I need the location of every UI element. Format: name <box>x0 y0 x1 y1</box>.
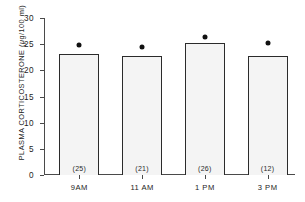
significance-marker-dot <box>140 45 145 50</box>
y-tick-10: 10 <box>40 123 44 124</box>
y-tick-label-20: 20 <box>24 66 34 75</box>
y-tick-label-5: 5 <box>29 144 34 153</box>
y-tick-label-10: 10 <box>24 118 34 127</box>
y-axis-line <box>44 18 45 175</box>
plot-area: 051015202530 (25)(21)(26)(12) 9AM11 AM1 … <box>44 18 295 175</box>
x-axis-label-9am: 9AM <box>71 183 88 192</box>
bar-3-pm[interactable]: (12) <box>248 56 288 175</box>
y-tick-25: 25 <box>40 44 44 45</box>
bar-sample-size-label: (21) <box>123 165 161 172</box>
significance-marker-dot <box>202 34 207 39</box>
x-tick-3 <box>268 175 269 179</box>
x-tick-2 <box>205 175 206 179</box>
x-tick-0 <box>79 175 80 179</box>
x-axis-label-3-pm: 3 PM <box>258 183 278 192</box>
y-tick-20: 20 <box>40 70 44 71</box>
y-tick-30: 30 <box>40 18 44 19</box>
significance-marker-dot <box>265 41 270 46</box>
y-tick-5: 5 <box>40 149 44 150</box>
x-axis-label-1-pm: 1 PM <box>195 183 215 192</box>
bar-chart: PLASMA CORTICOSTERONE (μg/100 ml) 051015… <box>0 0 305 202</box>
bar-11-am[interactable]: (21) <box>122 56 162 175</box>
y-tick-label-30: 30 <box>24 14 34 23</box>
x-axis-label-11-am: 11 AM <box>130 183 153 192</box>
y-tick-0: 0 <box>40 175 44 176</box>
bar-1-pm[interactable]: (26) <box>185 43 225 175</box>
y-tick-15: 15 <box>40 97 44 98</box>
y-tick-label-15: 15 <box>24 92 34 101</box>
y-tick-label-25: 25 <box>24 40 34 49</box>
y-tick-label-0: 0 <box>29 171 34 180</box>
bar-9am[interactable]: (25) <box>59 54 99 175</box>
bar-sample-size-label: (26) <box>186 165 224 172</box>
y-axis-title-prefix: PLASMA CORTICOSTERONE ( <box>17 44 26 160</box>
y-axis-title: PLASMA CORTICOSTERONE (μg/100 ml) <box>17 0 26 168</box>
bar-sample-size-label: (12) <box>249 165 287 172</box>
bar-sample-size-label: (25) <box>60 165 98 172</box>
x-tick-1 <box>142 175 143 179</box>
significance-marker-dot <box>77 43 82 48</box>
